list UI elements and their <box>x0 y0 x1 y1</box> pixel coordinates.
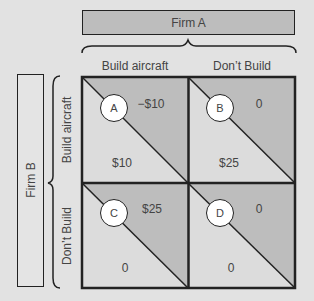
cell-b-id: B <box>216 102 223 114</box>
cell-b-firm-a-payoff: 0 <box>256 97 263 111</box>
cell-c-id: C <box>110 207 118 219</box>
column-label-build-aircraft: Build aircraft <box>102 59 169 73</box>
cell-c-firm-b-payoff: 0 <box>122 261 129 275</box>
cell-d-id: D <box>216 207 224 219</box>
row-label-build-aircraft: Build aircraft <box>60 97 74 164</box>
row-label-dont-build: Don’t Build <box>60 207 74 265</box>
payoff-matrix-graphics <box>0 0 314 301</box>
cell-b-firm-b-payoff: $25 <box>219 156 239 170</box>
cell-d-firm-b-payoff: 0 <box>228 261 235 275</box>
cell-a-firm-b-payoff: $10 <box>112 156 132 170</box>
cell-c-marker: C <box>100 199 128 227</box>
cell-d-firm-a-payoff: 0 <box>256 202 263 216</box>
cell-d-marker: D <box>206 199 234 227</box>
cell-a-marker: A <box>100 94 128 122</box>
firm-a-brace <box>82 40 296 53</box>
column-label-dont-build: Don’t Build <box>213 59 271 73</box>
firm-b-brace <box>48 76 60 288</box>
cell-b-marker: B <box>206 94 234 122</box>
cell-a-id: A <box>110 102 117 114</box>
cell-c-firm-a-payoff: $25 <box>142 202 162 216</box>
cell-a-firm-a-payoff: −$10 <box>137 97 164 111</box>
